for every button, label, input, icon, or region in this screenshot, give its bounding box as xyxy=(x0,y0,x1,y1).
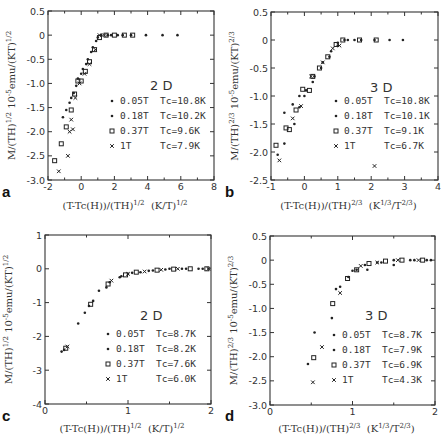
y-tick-label: 0.5 xyxy=(30,6,45,17)
panel-letter: a xyxy=(2,183,11,200)
data-point xyxy=(396,258,400,262)
legend-marker xyxy=(111,100,114,103)
y-tick-label: -1.0 xyxy=(248,303,267,314)
data-point xyxy=(373,164,377,168)
x-tick-label: 4 xyxy=(435,181,441,192)
legend: 0.05TTc=8.7K0.18TTc=7.9K0.37TTc=6.9K1TTc… xyxy=(332,329,422,385)
data-point xyxy=(68,130,72,134)
legend-marker xyxy=(106,377,110,381)
x-tick-label: 2 xyxy=(111,181,117,192)
data-point xyxy=(335,288,338,291)
y-tick-label: -2.5 xyxy=(26,150,45,161)
data-point xyxy=(155,268,159,272)
data-point xyxy=(338,291,342,295)
y-tick-label: -1.5 xyxy=(249,119,268,130)
y-tick-label: 0 xyxy=(262,35,268,46)
legend-field: 0.18T xyxy=(342,344,371,355)
x-axis-title: (T-Tc(H))/(TH)2/3 (K1/3/T2/3) xyxy=(280,199,416,211)
data-point xyxy=(351,269,354,272)
panel-letter: c xyxy=(2,407,10,424)
legend-field: 0.18T xyxy=(120,110,149,121)
data-point xyxy=(320,345,324,349)
y-tick-label: -3.0 xyxy=(26,175,45,186)
data-point xyxy=(294,108,298,112)
legend-field: 0.18T xyxy=(344,110,373,121)
x-axis-title: (T-Tc(H))/(TH)2/3 (K1/3/T2/3) xyxy=(278,422,414,434)
data-point xyxy=(311,381,315,385)
x-axis-title: (T-Tc(H))/(TH)1/2 (K/T)1/2 xyxy=(63,199,188,211)
data-point xyxy=(176,267,180,271)
data-point xyxy=(57,170,61,174)
data-point xyxy=(80,72,83,75)
x-tick-label: 8 xyxy=(211,181,217,192)
x-tick-label: 1 xyxy=(125,405,131,416)
legend-field: 0.37T xyxy=(116,358,145,369)
data-point xyxy=(98,289,101,292)
data-point xyxy=(283,112,286,115)
dimension-label: 3 D xyxy=(370,80,392,95)
y-tick-label: 0 xyxy=(36,263,42,274)
y-tick-label: 1 xyxy=(36,230,42,241)
legend-tc: Tc=10.8K xyxy=(160,95,206,106)
data-point xyxy=(367,262,371,266)
legend-tc: Tc=9.1K xyxy=(384,125,424,136)
legend-field: 0.05T xyxy=(116,328,145,339)
y-tick-label: -2 xyxy=(33,331,42,342)
y-tick-label: -0.5 xyxy=(26,54,45,65)
data-point xyxy=(298,95,301,98)
y-tick-label: -0.5 xyxy=(248,279,267,290)
data-point xyxy=(197,268,200,271)
legend-field: 0.05T xyxy=(344,95,373,106)
legend: 0.05TTc=8.7K0.18TTc=8.2K0.37TTc=7.6K1TTc… xyxy=(106,328,196,384)
y-tick-label: -2.0 xyxy=(249,147,268,158)
legend-tc: Tc=7.6K xyxy=(156,358,196,369)
data-point xyxy=(430,259,433,262)
legend-field: 0.37T xyxy=(120,125,149,136)
data-point xyxy=(172,267,176,271)
y-tick-label: -1.0 xyxy=(249,91,268,102)
data-point xyxy=(359,264,363,268)
data-point xyxy=(62,116,65,119)
data-point xyxy=(274,143,278,147)
panel-letter: d xyxy=(225,407,234,424)
data-point xyxy=(161,34,164,37)
panel-c: 01210-1-2-3-42 D0.05TTc=8.7K0.18TTc=8.2K… xyxy=(2,230,214,435)
legend-field: 0.37T xyxy=(342,359,371,370)
data-point xyxy=(301,87,305,91)
data-point xyxy=(380,261,383,264)
legend-marker xyxy=(333,334,336,337)
legend-field: 0.05T xyxy=(120,95,149,106)
y-tick-label: 0 xyxy=(39,30,45,41)
legend-tc: Tc=8.7K xyxy=(156,328,196,339)
legend-marker xyxy=(110,144,114,148)
data-point xyxy=(402,39,405,42)
x-tick-label: 6 xyxy=(178,181,184,192)
panel-a: -2024680.50-0.5-1.0-1.5-2.0-2.5-3.02 D0.… xyxy=(2,6,217,212)
legend-tc: Tc=7.9K xyxy=(382,344,422,355)
panel-b: -1012340.50-0.5-1.0-1.5-2.0-2.53 D0.05TT… xyxy=(225,7,441,212)
data-point xyxy=(291,103,294,106)
data-point xyxy=(134,270,138,274)
x-tick-label: 2 xyxy=(432,406,438,417)
legend-marker xyxy=(332,378,336,382)
data-point xyxy=(139,271,142,274)
data-point xyxy=(164,268,167,271)
data-point xyxy=(353,39,356,42)
data-point xyxy=(74,96,78,100)
y-tick-label: -3.0 xyxy=(248,400,267,411)
data-point xyxy=(181,268,184,271)
data-point xyxy=(400,258,404,262)
legend-tc: Tc=8.7K xyxy=(382,329,422,340)
data-point xyxy=(413,259,416,262)
data-point xyxy=(69,108,73,112)
legend-marker xyxy=(107,348,110,351)
y-axis-title: M/(TH)1/2 10-5emu/(KT)1/2 xyxy=(5,31,17,160)
x-tick-label: 1 xyxy=(335,181,341,192)
panel-letter: b xyxy=(225,183,234,200)
data-point xyxy=(392,259,395,262)
data-point xyxy=(339,285,342,288)
legend-marker xyxy=(333,349,336,352)
data-point xyxy=(75,85,78,88)
y-tick-label: 0.5 xyxy=(252,231,267,242)
data-point xyxy=(303,95,306,98)
